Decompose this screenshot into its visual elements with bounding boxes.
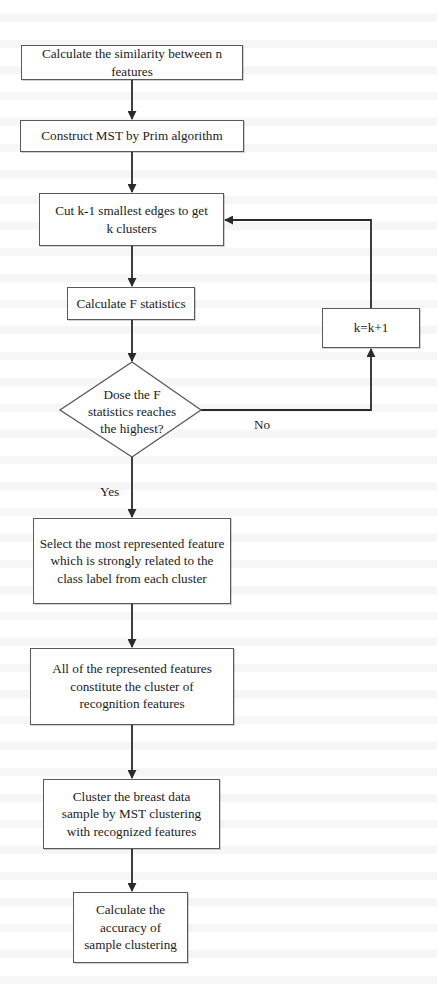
- node-calculate-accuracy: Calculate the accuracy of sample cluster…: [73, 892, 188, 963]
- node-text-line: Select the most represented feature: [40, 535, 225, 553]
- arrow-loop-n6-n3: [225, 220, 371, 308]
- node-cluster-breast-data: Cluster the breast data sample by MST cl…: [43, 779, 220, 849]
- node-calculate-similarity: Calculate the similarity between n featu…: [21, 45, 243, 80]
- node-text-line: All of the represented features: [52, 660, 212, 678]
- node-text-line: sample clustering: [84, 936, 177, 954]
- edge-label-yes: Yes: [100, 484, 119, 500]
- node-text-line: Calculate F statistics: [76, 295, 185, 313]
- node-text-line: Dose the F: [88, 386, 176, 403]
- node-calculate-f-statistics: Calculate F statistics: [67, 287, 195, 320]
- node-increment-k: k=k+1: [322, 308, 420, 348]
- node-text-line: k clusters: [55, 220, 208, 238]
- node-text-line: with recognized features: [62, 823, 201, 841]
- decision-f-statistics-highest: Dose the F statistics reaches the highes…: [72, 380, 192, 442]
- node-text-line: Calculate the similarity between n: [42, 45, 222, 63]
- node-cut-edges: Cut k-1 smallest edges to get k clusters: [39, 193, 224, 246]
- arrow-no-n5-n6: [200, 349, 371, 410]
- node-text-line: sample by MST clustering: [62, 805, 201, 823]
- node-text-line: the highest?: [88, 420, 176, 437]
- node-text-line: statistics reaches: [88, 403, 176, 420]
- node-select-represented-feature: Select the most represented feature whic…: [33, 518, 231, 604]
- node-construct-mst: Construct MST by Prim algorithm: [20, 120, 244, 152]
- node-text-line: Cut k-1 smallest edges to get: [55, 202, 208, 220]
- node-text-line: Construct MST by Prim algorithm: [41, 127, 222, 145]
- node-text-line: class label from each cluster: [40, 570, 225, 588]
- node-text-line: recognition features: [52, 695, 212, 713]
- node-constitute-recognition-features: All of the represented features constitu…: [30, 648, 234, 725]
- node-text-line: accuracy of: [84, 919, 177, 937]
- node-text-line: Cluster the breast data: [62, 788, 201, 806]
- node-text-line: constitute the cluster of: [52, 678, 212, 696]
- node-text-line: which is strongly related to the: [40, 552, 225, 570]
- edge-label-no: No: [254, 417, 270, 433]
- node-text-line: features: [42, 63, 222, 81]
- node-text-line: k=k+1: [354, 319, 389, 337]
- node-text-line: Calculate the: [84, 901, 177, 919]
